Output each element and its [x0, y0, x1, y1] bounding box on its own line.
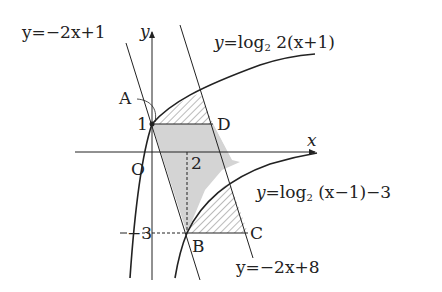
point-A — [150, 122, 155, 127]
x-axis-label: x — [307, 130, 317, 150]
point-B-label: B — [192, 236, 205, 256]
diagram-canvas: y x O 1 2 −3 A D B C y=−2x+1 y=−2x+8 y=l… — [0, 0, 442, 292]
origin-label: O — [131, 159, 145, 179]
curve-lower-eq: =log — [266, 182, 307, 202]
hatched-region-upper — [152, 93, 213, 124]
tick-y1-label: 1 — [137, 114, 148, 134]
curve-upper-y: y — [213, 32, 224, 52]
label-line-lower: y=−2x+8 — [235, 257, 320, 277]
label-curve-log-lower: y=log2 (x−1)−3 — [255, 182, 391, 203]
curve-upper-arg: 2(x+1) — [271, 32, 335, 52]
tick-y-neg3-label: −3 — [127, 223, 152, 243]
curve-lower-y: y — [255, 182, 266, 202]
point-D-label: D — [217, 114, 231, 134]
label-curve-log-upper: y=log2 2(x+1) — [213, 32, 335, 53]
point-A-label: A — [118, 88, 132, 108]
curve-lower-arg: (x−1)−3 — [313, 182, 391, 202]
tick-x2-label: 2 — [191, 153, 202, 173]
point-C-label: C — [250, 223, 263, 243]
y-axis-label: y — [139, 21, 150, 41]
label-line-upper: y=−2x+1 — [21, 22, 106, 42]
curve-upper-eq: =log — [224, 32, 265, 52]
